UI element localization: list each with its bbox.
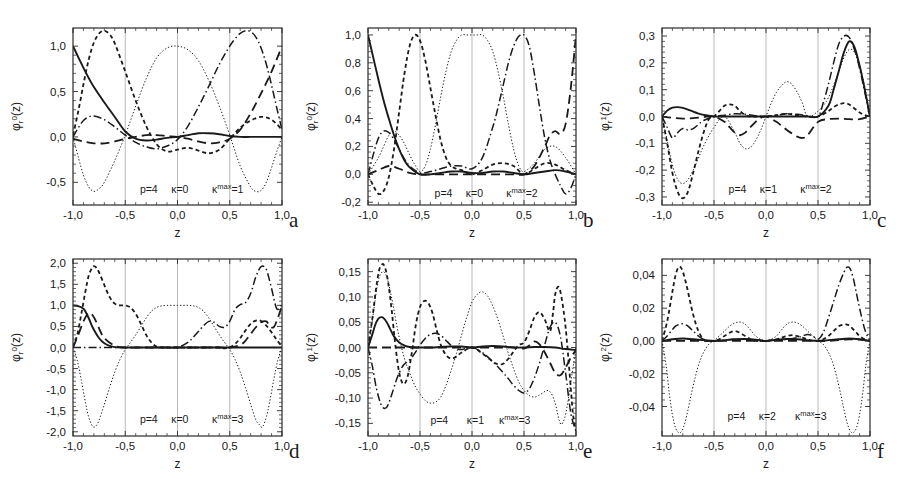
annotation-text: p=4 bbox=[435, 187, 453, 199]
x-axis-title: z bbox=[175, 457, 181, 471]
y-tick-label: -1,5 bbox=[46, 405, 66, 417]
annotations: p=4κ=0κmax=1 bbox=[140, 182, 244, 195]
panel-b: -1,0-0,50,00,51,0-0,20,00,20,40,60,81,0z… bbox=[295, 0, 594, 255]
annotation-text: κ=1 bbox=[760, 183, 777, 195]
y-tick-label: -0,2 bbox=[341, 196, 361, 208]
annotation-text: p=4 bbox=[729, 183, 747, 195]
x-tick-label: -1,0 bbox=[652, 209, 672, 221]
y-tick-label: -2,0 bbox=[46, 426, 66, 438]
x-tick-label: -0,5 bbox=[410, 440, 430, 452]
annotation-text: p=4 bbox=[140, 183, 158, 195]
x-tick-label: 0,0 bbox=[170, 440, 186, 452]
y-tick-label: 0,5 bbox=[50, 86, 66, 98]
svg-text:φr0(z): φr0(z) bbox=[9, 333, 25, 362]
y-tick-label: -0,10 bbox=[335, 392, 361, 404]
y-tick-label: -0,3 bbox=[635, 191, 655, 203]
y-tick-label: 0,10 bbox=[339, 291, 361, 303]
y-tick-label: -1,0 bbox=[46, 384, 66, 396]
x-tick-label: -0,5 bbox=[704, 440, 724, 452]
x-axis-title: z bbox=[469, 457, 475, 471]
annotation-text: κmax=1 bbox=[212, 182, 244, 195]
y-axis-title: φr1(z) bbox=[304, 333, 320, 362]
panel-e: -1,0-0,50,00,51,0-0,15-0,10-0,050,000,05… bbox=[295, 231, 594, 479]
y-tick-label: 1,0 bbox=[50, 40, 66, 52]
annotation-text: κmax=2 bbox=[800, 182, 832, 195]
annotation-text: κmax=3 bbox=[795, 409, 827, 422]
annotation-text: κmax=3 bbox=[212, 412, 244, 425]
x-tick-label: -0,5 bbox=[704, 209, 724, 221]
y-tick-label: 0,05 bbox=[339, 316, 361, 328]
x-tick-label: 0,0 bbox=[170, 209, 186, 221]
annotation-text: p=4 bbox=[728, 410, 746, 422]
x-tick-label: 0,0 bbox=[758, 209, 774, 221]
x-tick-label: 1,0 bbox=[862, 209, 878, 221]
y-axis-title: φr2(z) bbox=[598, 333, 614, 362]
figure-root: -1,0-0,50,00,51,0-0,50,00,51,0zφr0(z)p=4… bbox=[0, 0, 922, 479]
y-tick-label: 0,8 bbox=[345, 57, 361, 69]
panel-d: -1,0-0,50,00,51,0-2,0-1,5-1,0-0,50,00,51… bbox=[0, 231, 300, 479]
y-tick-label: -0,2 bbox=[635, 164, 655, 176]
y-tick-label: 0,02 bbox=[633, 302, 655, 314]
x-tick-label: 0,5 bbox=[516, 440, 532, 452]
y-tick-label: 0,3 bbox=[639, 30, 655, 42]
annotation-text: p=4 bbox=[430, 414, 448, 426]
y-tick-label: 0,6 bbox=[345, 85, 361, 97]
x-tick-label: 0,0 bbox=[758, 440, 774, 452]
annotation-text: κ=2 bbox=[759, 410, 776, 422]
x-tick-label: 1,0 bbox=[274, 209, 290, 221]
y-tick-label: 2,0 bbox=[50, 257, 66, 269]
annotation-text: κmax=2 bbox=[506, 186, 538, 199]
svg-text:φr1(z): φr1(z) bbox=[598, 102, 614, 131]
y-tick-label: 1,0 bbox=[50, 299, 66, 311]
x-axis: -1,0-0,50,00,51,0 bbox=[652, 259, 878, 452]
panel-c: -1,0-0,50,00,51,0-0,3-0,2-0,10,00,10,20,… bbox=[589, 0, 888, 255]
x-tick-label: -0,5 bbox=[115, 209, 135, 221]
y-tick-label: 0,5 bbox=[50, 320, 66, 332]
svg-text:φr0(z): φr0(z) bbox=[9, 102, 25, 131]
panel-f: -1,0-0,50,00,51,0-0,04-0,020,000,020,04z… bbox=[589, 231, 888, 479]
annotations: p=4κ=2κmax=3 bbox=[728, 409, 827, 422]
y-tick-label: 0,00 bbox=[633, 335, 655, 347]
y-tick-label: -0,1 bbox=[635, 137, 655, 149]
gridlines bbox=[125, 28, 230, 205]
y-tick-label: -0,02 bbox=[629, 368, 655, 380]
x-tick-label: -1,0 bbox=[358, 209, 378, 221]
y-tick-label: 1,5 bbox=[50, 278, 66, 290]
x-tick-label: 1,0 bbox=[568, 209, 584, 221]
x-tick-label: -0,5 bbox=[410, 209, 430, 221]
y-axis-title: φr0(z) bbox=[9, 333, 25, 362]
y-tick-label: 0,0 bbox=[50, 131, 66, 143]
y-tick-label: -0,04 bbox=[629, 401, 656, 413]
svg-text:φr0(z): φr0(z) bbox=[304, 102, 320, 131]
annotations: p=4κ=0κmax=2 bbox=[435, 186, 538, 199]
y-tick-label: 0,2 bbox=[639, 57, 655, 69]
y-tick-label: 0,04 bbox=[633, 269, 656, 281]
y-tick-label: -0,15 bbox=[335, 417, 361, 429]
x-tick-label: 1,0 bbox=[568, 440, 584, 452]
x-tick-label: -0,5 bbox=[115, 440, 135, 452]
annotation-text: κ=1 bbox=[467, 414, 484, 426]
x-tick-label: 1,0 bbox=[862, 440, 878, 452]
y-tick-label: 0,15 bbox=[339, 266, 361, 278]
annotations: p=4κ=1κmax=2 bbox=[729, 182, 832, 195]
y-axis-title: φr0(z) bbox=[9, 102, 25, 131]
y-tick-label: -0,05 bbox=[335, 367, 361, 379]
annotation-text: κ=0 bbox=[171, 183, 188, 195]
svg-text:φr1(z): φr1(z) bbox=[304, 333, 320, 362]
x-tick-label: 1,0 bbox=[274, 440, 290, 452]
y-tick-label: 1,0 bbox=[345, 29, 361, 41]
annotation-text: p=4 bbox=[140, 413, 158, 425]
annotations: p=4κ=0κmax=3 bbox=[140, 412, 244, 425]
svg-text:φr2(z): φr2(z) bbox=[598, 333, 614, 362]
y-tick-label: 0,2 bbox=[345, 140, 361, 152]
x-tick-label: 0,0 bbox=[464, 440, 480, 452]
annotations: p=4κ=1κmax=3 bbox=[430, 413, 530, 426]
x-axis-title: z bbox=[763, 457, 769, 471]
panel-letter-c: c bbox=[877, 208, 886, 233]
x-tick-label: 0,5 bbox=[516, 209, 532, 221]
annotation-text: κ=0 bbox=[171, 413, 188, 425]
y-tick-label: 0,0 bbox=[345, 168, 361, 180]
y-axis-title: φr0(z) bbox=[304, 102, 320, 131]
y-tick-label: 0,0 bbox=[639, 111, 655, 123]
annotation-text: κmax=3 bbox=[499, 413, 531, 426]
